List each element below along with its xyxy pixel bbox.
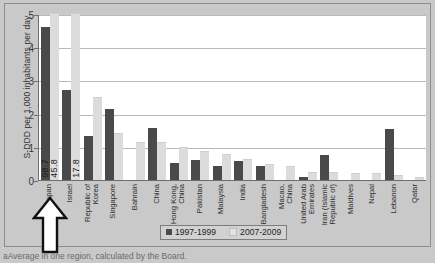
x-label-cell: Iran (IslamicRepublic of) [318, 183, 340, 245]
x-label-cell: Qatar [405, 183, 427, 245]
x-axis-category-label: Singapore [109, 184, 117, 219]
figure-caption: aAverage in one region, calculated by th… [3, 251, 433, 263]
bar-group [362, 15, 384, 180]
x-axis-category-label: China [152, 184, 160, 204]
y-tick-label: 5 [8, 10, 34, 21]
y-axis-ticks: 012345 [5, 15, 38, 181]
bar-group: 17.8 [61, 15, 83, 180]
legend-item-2: 2007-2009 [229, 227, 281, 237]
bar [62, 90, 71, 180]
plot-area: 98.745.817.8 [38, 15, 426, 181]
bar [351, 173, 360, 180]
bar-series-container: 98.745.817.8 [39, 15, 426, 180]
bar-group [340, 15, 362, 180]
bar [157, 142, 166, 180]
x-label-cell: Republic ofKorea [81, 183, 103, 245]
bar-group [276, 15, 298, 180]
y-tick-label: 3 [8, 76, 34, 87]
bar [308, 172, 317, 180]
chart-figure: S-DDD per 1,000 inhabitants per day 0123… [4, 3, 431, 247]
x-label-cell: Maldives [340, 183, 362, 245]
bar [213, 166, 222, 180]
bar-group [82, 15, 104, 180]
bar-value-label: 45.8 [49, 159, 59, 178]
bar-group [190, 15, 212, 180]
y-tick-label: 4 [8, 43, 34, 54]
legend-swatch-icon [166, 229, 172, 235]
bar-group [254, 15, 276, 180]
bar [385, 129, 394, 180]
x-label-cell: United ArabEmirates [297, 183, 319, 245]
bar: 45.8 [50, 13, 59, 180]
bar: 17.8 [71, 13, 80, 180]
bar-group [233, 15, 255, 180]
x-axis-category-label: United ArabEmirates [299, 184, 316, 224]
x-axis-category-label: Maldives [346, 184, 354, 214]
bar-group [125, 15, 147, 180]
bar-group [211, 15, 233, 180]
bar-group: 98.745.8 [39, 15, 61, 180]
bar [320, 155, 329, 180]
x-axis-category-label: Bahrain [131, 184, 139, 210]
legend-label-2: 2007-2009 [240, 227, 281, 237]
x-axis-category-label: Qatar [411, 184, 419, 203]
bar [191, 160, 200, 180]
bar [372, 173, 381, 180]
legend-item-1: 1997-1999 [166, 227, 216, 237]
bar [222, 154, 231, 180]
legend-swatch-icon [229, 228, 237, 236]
y-tick-label: 0 [8, 176, 34, 187]
bar [148, 128, 157, 180]
up-arrow-annotation-icon [32, 196, 68, 254]
bar [286, 166, 295, 180]
x-label-cell: Bahrain [124, 183, 146, 245]
bar [136, 142, 145, 180]
x-label-cell: Lebanon [383, 183, 405, 245]
y-tick-label: 2 [8, 109, 34, 120]
x-axis-category-label: Republic ofKorea [84, 184, 101, 222]
y-tick-label: 1 [8, 142, 34, 153]
chart-legend: 1997-1999 2007-2009 [160, 225, 287, 240]
bar-group [147, 15, 169, 180]
bar [170, 163, 179, 180]
bar [93, 97, 102, 180]
x-axis-category-label: Hong Kong,China [170, 184, 187, 224]
x-axis-category-label: Macao,China [278, 184, 295, 209]
bar [256, 166, 265, 180]
bar [234, 161, 243, 180]
bar [84, 136, 93, 180]
x-axis-category-label: Bangladesh [260, 184, 268, 224]
bar-group [104, 15, 126, 180]
bar [299, 177, 308, 180]
bar-group [383, 15, 405, 180]
bar [394, 175, 403, 180]
x-axis-category-label: Nepal [368, 184, 376, 204]
legend-label-1: 1997-1999 [175, 227, 216, 237]
bar [114, 133, 123, 180]
bar [265, 164, 274, 180]
x-axis-category-label: Malaysia [217, 184, 225, 214]
x-label-cell: Nepal [361, 183, 383, 245]
x-axis-category-label: Pakistan [196, 184, 204, 213]
bar [243, 159, 252, 180]
x-axis-category-label: India [239, 184, 247, 200]
x-axis-category-label: Iran (IslamicRepublic of) [321, 184, 338, 225]
bar-group [319, 15, 341, 180]
bar [105, 109, 114, 180]
bar [200, 151, 209, 180]
bar-group [297, 15, 319, 180]
bar [415, 177, 424, 180]
bar [329, 172, 338, 180]
bar [179, 147, 188, 180]
x-label-cell: Singapore [103, 183, 125, 245]
bar-value-label: 17.8 [71, 159, 81, 178]
x-axis-category-label: Lebanon [390, 184, 398, 214]
bar-group [168, 15, 190, 180]
y-tick-mark [34, 181, 38, 182]
bar: 98.7 [41, 27, 50, 180]
bar-group [405, 15, 427, 180]
